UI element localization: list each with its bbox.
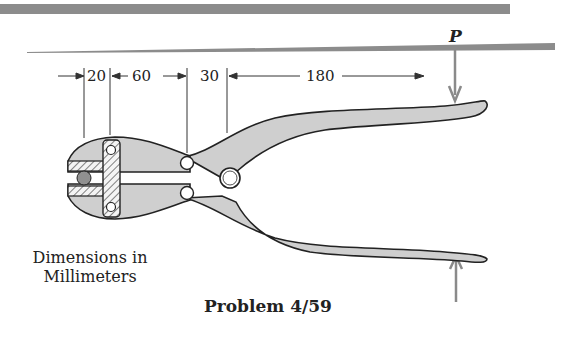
units-note-line2: Millimeters [20, 267, 160, 286]
dimension-label-20: 20 [86, 69, 107, 84]
dimension-label-30: 30 [199, 69, 220, 84]
link-plate [103, 140, 120, 217]
dimension-arrows [58, 73, 424, 79]
units-note-line1: Dimensions in [20, 248, 160, 267]
lower-handle [185, 196, 487, 262]
upper-jaw [68, 137, 190, 172]
lower-jaw [68, 184, 190, 219]
dimension-label-60: 60 [131, 69, 152, 84]
force-arrow-up [450, 256, 462, 302]
force-label-p: P [449, 26, 462, 46]
top-band [0, 4, 510, 14]
dimension-label-180: 180 [305, 69, 336, 84]
upper-pin [181, 157, 194, 170]
workpiece-circle [77, 171, 91, 185]
lower-pin [181, 187, 194, 200]
upper-surface-line [27, 43, 555, 53]
bolt-cutter-diagram [0, 0, 562, 342]
center-pivot-pin [220, 168, 240, 188]
force-arrow-down [449, 50, 461, 101]
units-note: Dimensions in Millimeters [20, 248, 160, 286]
figure-caption: Problem 4/59 [204, 296, 332, 316]
upper-handle [185, 101, 487, 178]
